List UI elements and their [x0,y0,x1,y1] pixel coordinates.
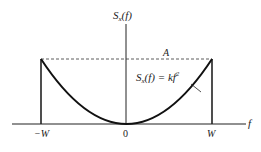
power-spectrum-diagram: Sx(f) A Sx(f) = kf2 f −W 0 W [0,0,261,152]
y-axis-label: Sx(f) [113,9,132,23]
curve-formula-label: Sx(f) = kf2 [136,70,180,85]
tick-label-zero: 0 [123,128,128,139]
x-axis-label: f [248,117,253,129]
level-a-label: A [162,47,170,58]
tick-label-neg-w: −W [34,128,51,139]
tick-label-w: W [207,128,217,139]
curve-label-leader [191,84,201,92]
